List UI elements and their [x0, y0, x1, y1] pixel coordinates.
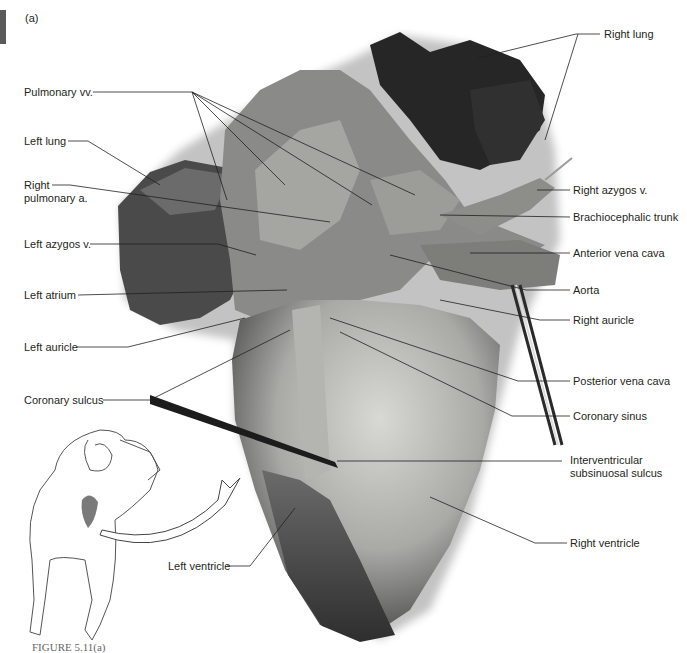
label-left-azygos-v: Left azygos v.: [24, 238, 91, 251]
label-brachiocephalic-trunk: Brachiocephalic trunk: [573, 211, 678, 224]
ram-heart-marker: [82, 495, 98, 528]
label-right-auricle: Right auricle: [573, 314, 634, 327]
label-posterior-vena-cava: Posterior vena cava: [573, 375, 670, 388]
forceps: [512, 285, 555, 445]
label-line-1: Right: [24, 179, 50, 191]
label-right-azygos-v: Right azygos v.: [573, 184, 647, 197]
label-right-pulmonary-a: Right pulmonary a.: [24, 179, 164, 205]
label-coronary-sulcus: Coronary sulcus: [24, 394, 103, 407]
label-left-atrium: Left atrium: [24, 289, 76, 302]
label-coronary-sinus: Coronary sinus: [573, 410, 647, 423]
figure-caption: FIGURE 5.11(a): [32, 641, 106, 653]
label-right-lung: Right lung: [604, 28, 654, 41]
label-right-ventricle: Right ventricle: [570, 537, 640, 550]
label-pulmonary-vv: Pulmonary vv.: [24, 86, 93, 99]
label-line-2: subsinuosal sulcus: [570, 467, 662, 479]
curved-arrow-icon: [100, 478, 240, 543]
label-line-2: pulmonary a.: [24, 192, 88, 204]
label-left-ventricle: Left ventricle: [168, 560, 230, 573]
label-line-1: Interventricular: [570, 454, 643, 466]
label-left-lung: Left lung: [24, 135, 66, 148]
label-anterior-vena-cava: Anterior vena cava: [573, 247, 665, 260]
label-left-auricle: Left auricle: [24, 341, 78, 354]
label-aorta: Aorta: [573, 284, 599, 297]
label-interventricular-subsinuosal-sulcus: Interventricular subsinuosal sulcus: [570, 454, 687, 480]
